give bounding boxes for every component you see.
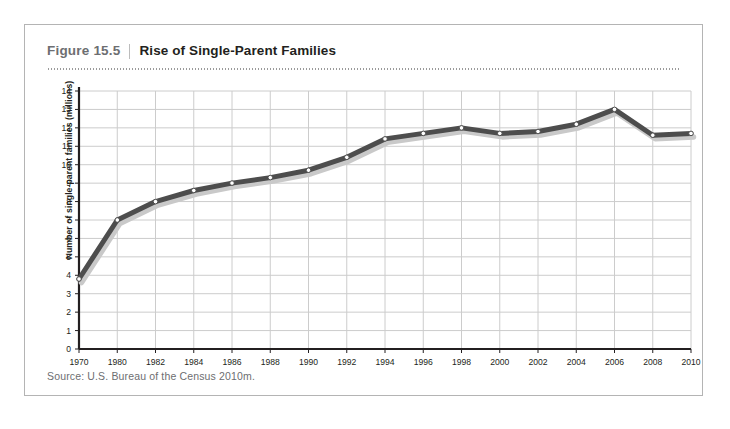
x-tick-label: 1996	[414, 357, 433, 367]
y-tick-label: 3	[66, 289, 71, 299]
data-point-marker	[115, 218, 120, 223]
y-tick-label: 7	[66, 215, 71, 225]
x-tick-label: 1990	[299, 357, 318, 367]
y-tick-label: 8	[66, 197, 71, 207]
data-point-marker	[345, 155, 350, 160]
data-point-marker	[77, 277, 82, 282]
chart-plot-area: Number of single-parent families (millio…	[25, 25, 704, 397]
x-tick-label: 2004	[567, 357, 586, 367]
y-tick-label: 9	[66, 178, 71, 188]
data-point-marker	[536, 129, 541, 134]
data-point-marker	[306, 168, 311, 173]
y-tick-label: 1	[66, 326, 71, 336]
data-point-marker	[383, 137, 388, 142]
x-tick-label: 1988	[261, 357, 280, 367]
x-tick-label: 1994	[375, 357, 394, 367]
y-tick-label: 11	[62, 141, 71, 151]
data-point-marker	[230, 181, 235, 186]
data-point-marker	[574, 122, 579, 127]
y-tick-label: 13	[61, 104, 71, 114]
x-tick-label: 2002	[528, 357, 547, 367]
y-tick-label: 0	[66, 344, 71, 354]
x-tick-label: 1998	[452, 357, 471, 367]
y-tick-label: 10	[61, 160, 71, 170]
y-tick-label: 2	[66, 307, 71, 317]
data-point-marker	[498, 131, 503, 136]
data-point-marker	[421, 131, 426, 136]
x-tick-label: 1992	[337, 357, 356, 367]
data-point-marker	[192, 188, 197, 193]
y-tick-label: 5	[66, 252, 71, 262]
line-chart: 0123456789101112131419701980198219841986…	[25, 25, 704, 397]
data-point-marker	[459, 126, 464, 131]
x-tick-label: 1982	[146, 357, 165, 367]
figure-panel: Figure 15.5Rise of Single-Parent Familie…	[24, 24, 703, 396]
x-tick-label: 2008	[643, 357, 662, 367]
x-tick-label: 1986	[222, 357, 241, 367]
data-point-marker	[651, 133, 656, 138]
y-tick-label: 12	[61, 123, 71, 133]
x-tick-label: 2010	[681, 357, 700, 367]
x-tick-label: 1984	[184, 357, 203, 367]
data-point-marker	[268, 175, 273, 180]
x-tick-label: 1980	[108, 357, 127, 367]
y-tick-label: 6	[66, 233, 71, 243]
x-tick-label: 1970	[69, 357, 88, 367]
y-tick-label: 4	[66, 270, 71, 280]
data-point-marker	[153, 199, 158, 204]
x-tick-label: 2000	[490, 357, 509, 367]
x-tick-label: 2006	[605, 357, 624, 367]
data-point-marker	[612, 107, 617, 112]
data-point-marker	[689, 131, 694, 136]
source-note: Source: U.S. Bureau of the Census 2010m.	[47, 370, 255, 382]
y-tick-label: 14	[61, 86, 71, 96]
